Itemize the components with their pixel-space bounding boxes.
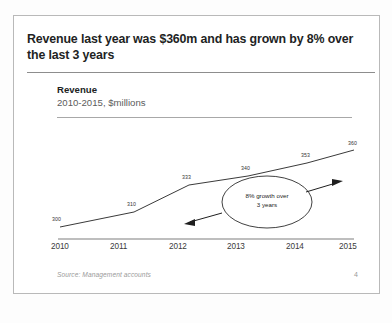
chart-title: Revenue	[57, 84, 357, 97]
callout-line-2: 3 years	[257, 201, 277, 208]
data-label-2011: 310	[127, 201, 136, 207]
page-title: Revenue last year was $360m and has grow…	[27, 32, 367, 64]
chart-header: Revenue 2010-2015, $millions	[57, 84, 357, 110]
slide-frame: Revenue last year was $360m and has grow…	[13, 15, 380, 294]
x-tick-2010: 2010	[51, 242, 69, 251]
callout-line-1: 8% growth over	[246, 192, 289, 199]
title-block: Revenue last year was $360m and has grow…	[27, 32, 367, 64]
x-tick-2015: 2015	[339, 242, 357, 251]
data-label-2014: 353	[301, 152, 310, 158]
callout-arrow-left-head	[184, 219, 195, 226]
x-tick-2012: 2012	[169, 242, 187, 251]
revenue-series-line	[60, 150, 354, 227]
data-label-2013: 340	[241, 165, 250, 171]
page-number: 4	[354, 271, 358, 278]
data-label-2010: 300	[52, 216, 61, 222]
data-label-2015: 360	[348, 140, 357, 146]
source-note: Source: Management accounts	[57, 271, 151, 278]
chart-header-divider	[57, 117, 352, 118]
data-label-2012: 333	[182, 174, 191, 180]
x-tick-2013: 2013	[227, 242, 245, 251]
title-divider	[27, 72, 375, 73]
growth-callout-text: 8% growth over 3 years	[222, 192, 312, 210]
callout-arrow-left-shaft	[190, 213, 222, 222]
callout-arrow-right-shaft	[306, 183, 336, 192]
callout-arrow-right-head	[332, 179, 343, 186]
x-tick-2011: 2011	[110, 242, 127, 251]
chart-subtitle: 2010-2015, $millions	[57, 97, 357, 110]
x-tick-2014: 2014	[286, 242, 304, 251]
